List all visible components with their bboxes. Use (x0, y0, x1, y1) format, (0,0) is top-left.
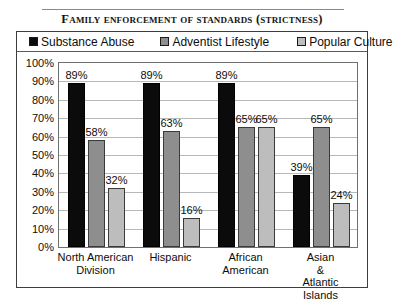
bar-g3-s2 (333, 203, 350, 247)
legend-label-1: Adventist Lifestyle (172, 36, 269, 48)
bar-g1-s0 (143, 83, 160, 247)
gridline-90 (59, 81, 357, 82)
title-divider-rule (42, 9, 344, 10)
y-axis-tick-label-10: 0% (14, 241, 54, 253)
bar-value-label-g1-s1: 63% (160, 117, 182, 129)
legend-swatch-icon-1 (160, 37, 169, 46)
bar-value-label-g0-s0: 89% (65, 69, 87, 81)
y-axis-tick-label-9: 10% (14, 223, 54, 235)
legend-label-0: Substance Abuse (41, 36, 134, 48)
x-axis-category-label-0: North American Division (58, 251, 134, 276)
gridline-80 (59, 100, 357, 101)
legend-item-2[interactable]: Popular Culture (297, 36, 392, 48)
legend-swatch-icon-2 (297, 37, 306, 46)
bar-g0-s2 (108, 188, 125, 247)
y-axis-tick-label-3: 70% (14, 112, 54, 124)
bar-g3-s1 (313, 127, 330, 247)
bar-value-label-g2-s0: 89% (215, 69, 237, 81)
bar-value-label-g2-s1: 65% (235, 113, 257, 125)
bar-value-label-g3-s2: 24% (330, 189, 352, 201)
y-axis-tick-label-2: 80% (14, 94, 54, 106)
x-axis-category-label-3: Asian & Atlantic Islands (302, 251, 340, 301)
legend-label-2: Popular Culture (309, 36, 392, 48)
y-axis-tick-label-7: 30% (14, 186, 54, 198)
y-axis-tick-label-0: 100% (14, 57, 54, 69)
chart-legend: Substance AbuseAdventist LifestylePopula… (17, 32, 367, 52)
bar-g1-s1 (163, 131, 180, 247)
y-axis-tick-label-8: 20% (14, 204, 54, 216)
bar-g2-s1 (238, 127, 255, 247)
bar-g1-s2 (183, 218, 200, 247)
bar-g3-s0 (293, 175, 310, 247)
x-axis: North American DivisionHispanicAfrican A… (58, 251, 358, 285)
bar-g2-s0 (218, 83, 235, 247)
y-axis-tick-label-1: 90% (14, 75, 54, 87)
legend-item-1[interactable]: Adventist Lifestyle (160, 36, 269, 48)
y-axis-tick-label-6: 40% (14, 167, 54, 179)
bar-g0-s1 (88, 140, 105, 247)
bar-value-label-g0-s1: 58% (85, 126, 107, 138)
x-axis-category-label-2: African American (222, 251, 268, 276)
bar-g0-s0 (68, 83, 85, 247)
bar-value-label-g0-s2: 32% (105, 174, 127, 186)
bar-value-label-g1-s2: 16% (180, 204, 202, 216)
x-axis-category-label-1: Hispanic (149, 251, 191, 264)
legend-item-0[interactable]: Substance Abuse (29, 36, 134, 48)
y-axis-tick-label-4: 60% (14, 131, 54, 143)
legend-swatch-icon-0 (29, 37, 38, 46)
y-axis-tick-label-5: 50% (14, 149, 54, 161)
bar-value-label-g2-s2: 65% (255, 113, 277, 125)
y-axis: 100%90%80%70%60%50%40%30%20%10%0% (12, 62, 54, 248)
bar-value-label-g3-s0: 39% (290, 161, 312, 173)
bar-g2-s2 (258, 127, 275, 247)
bar-value-label-g1-s0: 89% (140, 69, 162, 81)
bar-value-label-g3-s1: 65% (310, 113, 332, 125)
chart-title: Family enforcement of standards (strictn… (16, 12, 368, 27)
plot-area: 89%58%32%89%63%16%89%65%65%39%65%24% (58, 62, 358, 248)
